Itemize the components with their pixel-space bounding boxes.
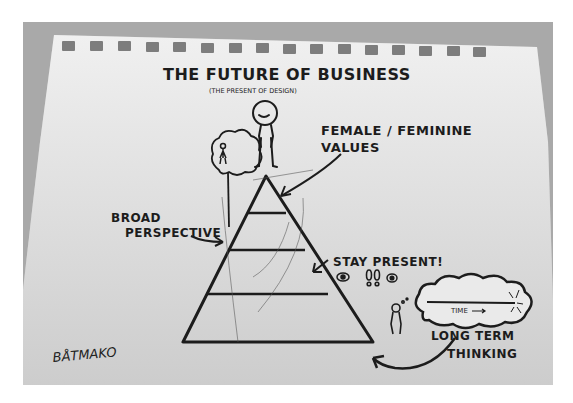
sketch-subtitle: (THE PRESENT OF DESIGN) — [209, 87, 297, 95]
label-long-term-thinking-line2: THINKING — [447, 347, 517, 361]
label-long-term-thinking-line1: LONG TERM — [431, 329, 515, 343]
label-female-values-line1: FEMALE / FEMININE — [321, 123, 472, 138]
label-time: TIME — [450, 307, 468, 315]
label-stay-present: STAY PRESENT! — [333, 255, 443, 269]
label-broad-perspective-line2: PERSPECTIVE — [125, 226, 221, 240]
label-female-values-line2: VALUES — [321, 140, 380, 155]
sketch-title: THE FUTURE OF BUSINESS — [163, 65, 411, 84]
label-broad-perspective-line1: BROAD — [111, 211, 161, 225]
sketch-photo: THE FUTURE OF BUSINESS (THE PRESENT OF D… — [23, 22, 553, 385]
